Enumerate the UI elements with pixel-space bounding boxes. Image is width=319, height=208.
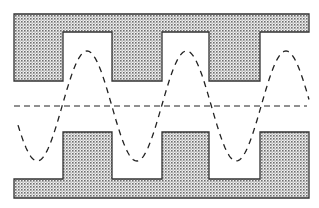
bottom-plate: [14, 132, 309, 198]
top-plate: [14, 14, 309, 81]
interlocking-plates-diagram: [0, 0, 319, 208]
